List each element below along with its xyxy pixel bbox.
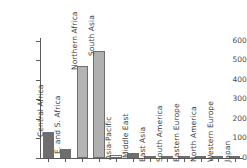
category-label: Asia-Pacific bbox=[105, 116, 113, 159]
category-label: Northern Africa bbox=[71, 12, 79, 71]
category-label: Japan bbox=[224, 141, 232, 162]
bar-chart: 0100200300400500600 Central AfricaE. and… bbox=[0, 0, 247, 168]
category-label: North America bbox=[190, 106, 198, 162]
category-labels-layer: Central AfricaE. and S. AfricaNorthern A… bbox=[40, 0, 243, 168]
category-label: E. and S. Africa bbox=[54, 95, 62, 154]
category-label: South America bbox=[156, 106, 164, 162]
category-label: Central Africa bbox=[37, 85, 45, 137]
category-label: East Asia bbox=[139, 127, 147, 162]
category-label: Middle East bbox=[122, 113, 130, 157]
category-label: Western Europe bbox=[207, 101, 215, 162]
category-label: South Asia bbox=[88, 15, 96, 56]
category-label: Eastern Europe bbox=[173, 103, 181, 162]
